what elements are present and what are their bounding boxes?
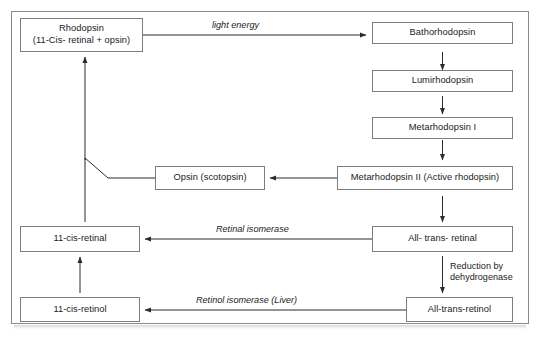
reduction-line1: Reduction by <box>450 261 503 271</box>
node-cis-retinol[interactable]: 11-cis-retinol <box>20 297 140 322</box>
edge-label-retinal-isomerase: Retinal isomerase <box>216 224 289 235</box>
node-all-trans-retinal[interactable]: All- trans- retinal <box>372 226 513 252</box>
node-bathorhodopsin[interactable]: Bathorhodopsin <box>372 22 513 44</box>
node-rhodopsin-line2: (11-Cis- retinal + opsin) <box>33 35 130 47</box>
reduction-line2: dehydrogenase <box>450 272 513 282</box>
node-metarhodopsin-1[interactable]: Metarhodopsin I <box>372 117 513 139</box>
edge-label-retinol-isomerase-liver: Retinol isomerase (Liver) <box>196 295 297 306</box>
edge-label-light-energy: light energy <box>212 20 259 31</box>
node-rhodopsin-line1: Rhodopsin <box>59 23 104 33</box>
node-rhodopsin[interactable]: Rhodopsin (11-Cis- retinal + opsin) <box>20 18 143 52</box>
rhodopsin-cycle-diagram: Rhodopsin (11-Cis- retinal + opsin) Bath… <box>0 0 540 337</box>
node-lumirhodopsin[interactable]: Lumirhodopsin <box>372 70 513 92</box>
edge-label-reduction-by-dehydrogenase: Reduction by dehydrogenase <box>450 261 530 283</box>
node-cis-retinal[interactable]: 11-cis-retinal <box>20 226 140 252</box>
edge-opsin-to-feedback-line <box>85 158 155 178</box>
node-opsin[interactable]: Opsin (scotopsin) <box>155 166 265 190</box>
node-metarhodopsin-2[interactable]: Metarhodopsin II (Active rhodopsin) <box>337 166 513 190</box>
node-all-trans-retinol[interactable]: All-trans-retinol <box>406 297 513 322</box>
